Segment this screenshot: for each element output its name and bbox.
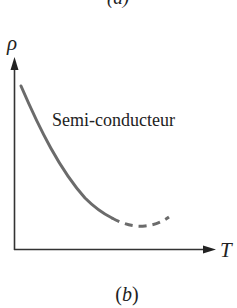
x-axis-arrow-icon — [203, 246, 216, 254]
chart-svg: (a) ρ T Semi-conducteur (b) — [0, 0, 237, 308]
y-axis-arrow-icon — [11, 57, 19, 70]
y-axis-label: ρ — [6, 31, 17, 55]
bottom-caption: (b) — [115, 283, 138, 306]
curve-annotation: Semi-conducteur — [52, 110, 175, 130]
x-axis-label: T — [220, 238, 233, 262]
top-caption: (a) — [107, 0, 129, 9]
semiconductor-curve-solid — [21, 86, 112, 218]
semiconductor-curve-dashed — [112, 217, 169, 226]
figure: (a) ρ T Semi-conducteur (b) — [0, 0, 237, 308]
